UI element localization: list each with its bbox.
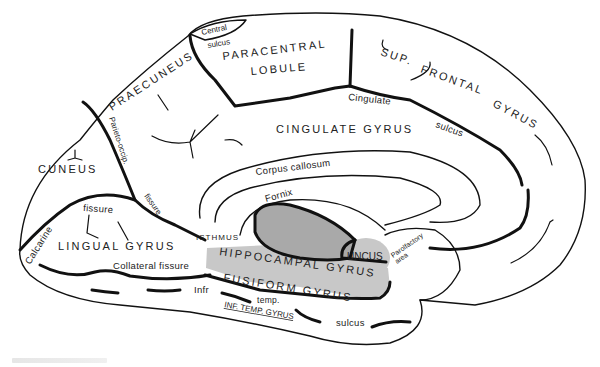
label-praecuneus: PRAECUNEUS <box>107 49 196 113</box>
figure-caption-faded <box>12 358 107 363</box>
praecuneus-sulcus-2 <box>152 115 218 158</box>
label-paracentral: PARACENTRAL <box>222 37 327 62</box>
label-uncus: UNCUS <box>347 251 383 262</box>
label-corpus-callosum: Corpus callosum <box>255 157 331 177</box>
label-collateral-fissure: Collateral fissure <box>113 260 189 271</box>
label-isthmus: ISTHMUS <box>196 233 239 242</box>
label-cingulate: Cingulate <box>348 91 392 106</box>
label-infr: Infr <box>194 284 209 295</box>
label-cuneus: CUNEUS <box>38 163 98 175</box>
inf-temp-sulcus-1 <box>92 290 118 293</box>
label-frontal: FRONTAL <box>419 63 485 97</box>
label-lobule: LOBULE <box>250 60 307 77</box>
marginal-sulcus <box>350 30 352 86</box>
praecuneus-sulcus-3 <box>225 140 242 145</box>
label-cingulate-gyrus: CINGULATE GYRUS <box>276 123 413 135</box>
praecuneus-sulcus-1 <box>158 95 168 110</box>
corpus-callosum-outer <box>200 151 481 223</box>
inf-temp-sulcus-4 <box>296 310 320 322</box>
lingual-sulcus-2 <box>118 222 128 240</box>
sup-frontal-sulcus-3 <box>535 135 552 165</box>
label-sulcus-infr: sulcus <box>336 317 365 328</box>
inf-temp-sulcus-5 <box>372 322 410 327</box>
label-temp: temp. <box>257 295 280 305</box>
parieto-occipital-fissure <box>83 102 205 240</box>
label-gyrus-frontal: GYRUS <box>491 97 541 131</box>
lingual-sulcus-1 <box>87 215 98 238</box>
label-sup: SUP. <box>379 45 414 67</box>
inf-temp-sulcus-2 <box>148 290 180 291</box>
label-lingual-gyrus: LINGUAL GYRUS <box>58 240 175 252</box>
frontal-small-sulcus <box>511 220 553 263</box>
brain-medial-surface-diagram: Central sulcus PARACENTRAL LOBULE SUP. F… <box>0 0 600 367</box>
cuneus-sulcus <box>68 150 82 160</box>
label-calcarine-fissure: fissure <box>83 202 114 215</box>
